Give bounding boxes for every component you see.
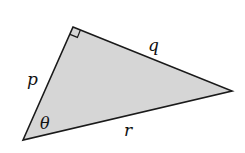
side-label-p: p xyxy=(27,69,38,89)
side-label-r: r xyxy=(124,120,133,140)
triangle-diagram: p q r θ xyxy=(0,0,245,153)
side-label-q: q xyxy=(148,35,159,55)
angle-label-theta: θ xyxy=(40,114,50,133)
